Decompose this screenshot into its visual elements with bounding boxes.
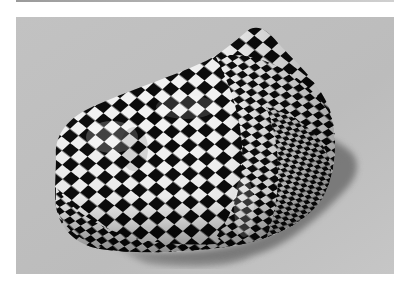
rendered-image-frame: [16, 17, 394, 274]
checkered-blob-render: [16, 17, 394, 274]
top-divider-bar: [16, 0, 394, 2]
